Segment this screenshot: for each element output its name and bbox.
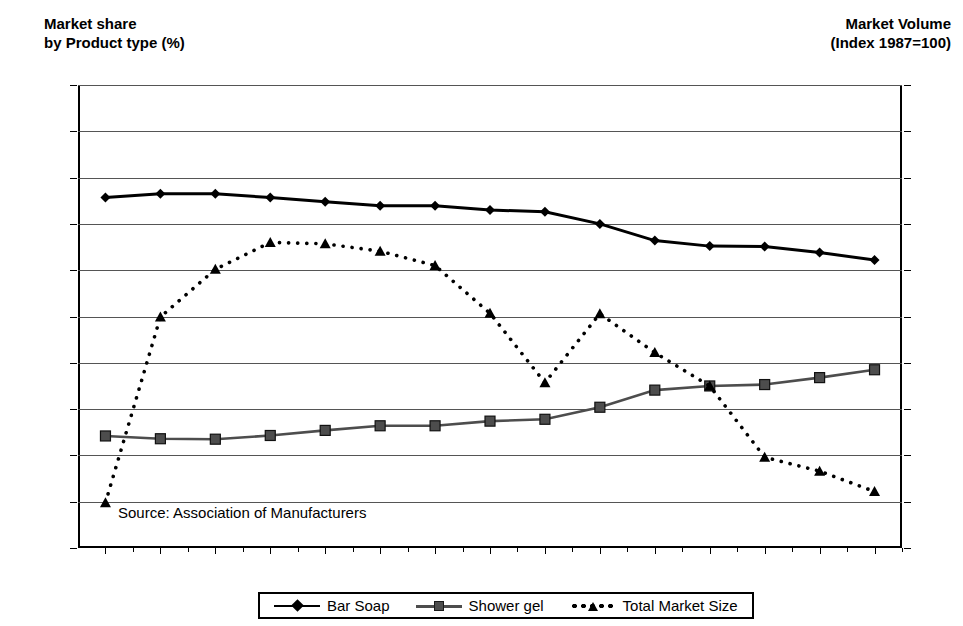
data-point-marker-square (815, 373, 825, 383)
series-total-market-size (100, 237, 880, 507)
x-axis-tick-mark (325, 548, 326, 554)
right-axis-tick-mark (904, 178, 911, 179)
data-point-marker-diamond (760, 242, 770, 252)
legend-swatch-square (416, 599, 462, 613)
legend-swatch-diamond (274, 599, 320, 613)
legend-label: Bar Soap (327, 598, 390, 613)
left-axis-title: Market share by Product type (%) (44, 14, 185, 52)
left-axis-tick-mark (70, 502, 77, 503)
right-axis-tick-mark (904, 317, 911, 318)
right-axis-tick-mark (904, 409, 911, 410)
right-axis-tick-mark (904, 85, 911, 86)
data-point-marker-diamond (430, 201, 440, 211)
legend-marker-diamond (291, 599, 304, 612)
chart-container: Market share by Product type (%) Market … (0, 0, 963, 626)
data-point-marker-diamond (870, 255, 880, 265)
x-axis-tick-mark (710, 548, 711, 554)
data-point-marker-square (540, 414, 550, 424)
data-point-marker-diamond (815, 248, 825, 258)
x-axis-minor-tick-mark (298, 548, 299, 552)
legend-item-bar-soap[interactable]: Bar Soap (274, 598, 390, 613)
right-axis-title: Market Volume (Index 1987=100) (831, 14, 952, 52)
x-axis-tick-mark (765, 548, 766, 554)
left-axis-tick-mark (70, 131, 77, 132)
left-axis-tick-mark (70, 363, 77, 364)
data-point-marker-square (595, 402, 605, 412)
x-axis-tick-mark (490, 548, 491, 554)
data-point-marker-diamond (650, 236, 660, 246)
right-axis-tick-mark (904, 270, 911, 271)
series-bar-soap (100, 189, 879, 265)
left-axis-tick-mark (70, 317, 77, 318)
data-point-marker-triangle (649, 347, 660, 357)
x-axis-tick-mark (105, 548, 106, 554)
x-axis-minor-tick-mark (408, 548, 409, 552)
x-axis-tick-mark (380, 548, 381, 554)
x-axis-minor-tick-mark (792, 548, 793, 552)
right-axis-tick-mark (904, 131, 911, 132)
x-axis-minor-tick-mark (737, 548, 738, 552)
x-axis-minor-tick-mark (682, 548, 683, 552)
x-axis-minor-tick-mark (133, 548, 134, 552)
x-axis-minor-tick-mark (517, 548, 518, 552)
data-point-marker-diamond (375, 201, 385, 211)
data-point-marker-square (265, 430, 275, 440)
legend-item-total-market-size[interactable]: Total Market Size (570, 598, 738, 613)
data-point-marker-triangle (265, 237, 276, 247)
legend-marker-square (434, 601, 444, 611)
left-axis-tick-mark (70, 455, 77, 456)
left-axis-tick-mark (70, 270, 77, 271)
data-point-marker-diamond (155, 189, 165, 199)
x-axis-tick-mark (215, 548, 216, 554)
data-point-marker-square (375, 421, 385, 431)
x-axis-tick-mark (545, 548, 546, 554)
x-axis-minor-tick-mark (627, 548, 628, 552)
data-point-marker-triangle (594, 308, 605, 318)
left-axis-tick-mark (70, 178, 77, 179)
x-axis-minor-tick-mark (902, 548, 903, 552)
data-point-marker-square (650, 385, 660, 395)
left-axis-tick-mark (70, 224, 77, 225)
x-axis-tick-mark (820, 548, 821, 554)
left-axis-tick-mark (70, 548, 77, 549)
x-axis-minor-tick-mark (847, 548, 848, 552)
x-axis-tick-mark (270, 548, 271, 554)
x-axis-minor-tick-mark (572, 548, 573, 552)
series-shower-gel (100, 365, 879, 444)
x-axis-minor-tick-mark (463, 548, 464, 552)
left-axis-tick-mark (70, 409, 77, 410)
right-axis-tick-mark (904, 455, 911, 456)
legend-marker-triangle (588, 602, 598, 611)
data-point-marker-diamond (540, 207, 550, 217)
x-axis-minor-tick-mark (353, 548, 354, 552)
data-point-marker-square (100, 431, 110, 441)
data-point-marker-square (870, 365, 880, 375)
data-point-marker-triangle (759, 452, 770, 462)
data-point-marker-square (320, 425, 330, 435)
x-axis-minor-tick-mark (188, 548, 189, 552)
x-axis-tick-mark (160, 548, 161, 554)
x-axis-tick-mark (600, 548, 601, 554)
right-axis-tick-mark (904, 224, 911, 225)
legend-label: Total Market Size (623, 598, 738, 613)
source-note: Source: Association of Manufacturers (118, 504, 366, 521)
right-axis-tick-mark (904, 363, 911, 364)
data-point-marker-diamond (210, 189, 220, 199)
data-point-marker-triangle (485, 308, 496, 318)
data-point-marker-diamond (100, 193, 110, 203)
x-axis-tick-mark (875, 548, 876, 554)
chart-legend: Bar SoapShower gelTotal Market Size (258, 592, 754, 619)
plot-area: -102030405060708090100 98100102104106108… (78, 85, 902, 548)
data-point-marker-square (430, 421, 440, 431)
legend-label: Shower gel (469, 598, 544, 613)
x-axis-minor-tick-mark (243, 548, 244, 552)
data-point-marker-triangle (869, 486, 880, 496)
data-point-marker-square (155, 434, 165, 444)
data-point-marker-triangle (320, 238, 331, 248)
left-axis-tick-mark (70, 85, 77, 86)
data-point-marker-triangle (210, 264, 221, 274)
data-point-marker-square (485, 416, 495, 426)
data-point-marker-diamond (705, 241, 715, 251)
data-point-marker-square (210, 434, 220, 444)
legend-item-shower-gel[interactable]: Shower gel (416, 598, 544, 613)
